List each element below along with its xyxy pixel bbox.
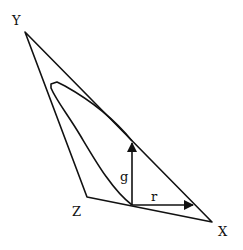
vertex-label-y: Y [11,13,21,28]
vertex-label-z: Z [72,204,81,219]
g-vector-label: g [120,169,128,184]
r-vector-label: r [151,189,158,204]
vertex-label-x: X [218,224,228,239]
diagram-canvas: Y Z X g r [0,0,243,250]
